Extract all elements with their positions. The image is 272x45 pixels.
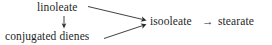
node-stearate: stearate [218,15,254,27]
diagonal-arrow-up-right-icon [104,23,147,38]
node-isooleate: isooleate [150,15,192,27]
node-linoleate: linoleate [37,1,78,13]
reaction-scheme-diagram: linoleate conjugated dienes isooleate → … [0,0,272,45]
right-arrow-icon: → [202,15,214,27]
diagonal-arrow-down-right-icon [88,7,147,22]
node-conjugated-dienes: conjugated dienes [5,30,89,42]
down-arrow-icon [62,16,67,29]
